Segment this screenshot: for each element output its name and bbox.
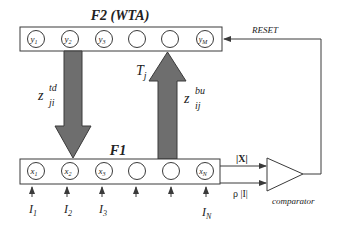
input-arrows (32, 187, 206, 197)
top-down-weight-sub: ji (47, 97, 55, 108)
input-label-2: I2 (63, 202, 72, 218)
f1-node-5 (163, 163, 180, 180)
bottom-up-weight-sub: ij (195, 100, 201, 111)
top-down-weight-label: z (37, 88, 44, 103)
art-network-diagram: F2 (WTA) y1 y2 y3 yM z td ji Tj z b (0, 0, 339, 228)
bottom-up-weight-sup: bu (195, 85, 205, 96)
top-down-weight-sup: td (49, 82, 58, 93)
f2-node-2: y2 (62, 31, 79, 48)
input-labels: I1 I2 I3 IN (28, 202, 212, 221)
f1-layer-title: F1 (109, 143, 126, 158)
top-down-weights-arrow (55, 51, 91, 158)
f1-node-n: xN (197, 163, 214, 180)
rho-norm-i-label: ρ |I| (233, 188, 248, 199)
f2-node-5 (162, 31, 179, 48)
reset-label: RESET (251, 25, 279, 35)
f1-node-1: x1 (28, 163, 45, 180)
comparator-icon (267, 158, 303, 191)
f2-node-m: yM (197, 31, 214, 48)
f2-layer-box (20, 27, 222, 51)
input-label-3: I3 (98, 202, 107, 218)
bottom-up-weights-arrow (149, 52, 186, 159)
norm-x-label: |X| (236, 153, 248, 164)
f1-node-3: x3 (96, 163, 113, 180)
f2-layer-title: F2 (WTA) (90, 8, 150, 24)
activation-label: Tj (136, 63, 147, 81)
input-label-1: I1 (28, 202, 37, 218)
f2-node-3: y3 (96, 31, 113, 48)
f1-node-4 (129, 163, 146, 180)
comparator-label: comparator (272, 196, 315, 206)
f2-node-4 (129, 31, 146, 48)
f1-layer-box (20, 159, 220, 184)
f1-node-2: x2 (62, 163, 79, 180)
bottom-up-weight-label: z (183, 91, 190, 106)
f2-node-1: y1 (28, 31, 45, 48)
input-label-n: IN (201, 205, 212, 221)
